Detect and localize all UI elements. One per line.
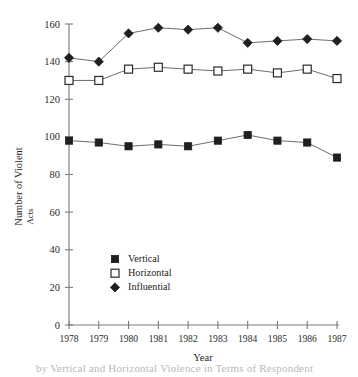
- chart-legend: VerticalHorizontalInfluential: [110, 253, 171, 292]
- data-point-marker: [154, 23, 163, 32]
- chart-series: [64, 23, 341, 161]
- legend-item-influential: Influential: [110, 281, 170, 292]
- series-line: [69, 135, 337, 158]
- figure-caption: by Vertical and Horizontal Violence in T…: [36, 363, 313, 374]
- y-axis-tick-label: 20: [50, 282, 61, 293]
- caption-strip: by Vertical and Horizontal Violence in T…: [0, 363, 358, 377]
- legend-item-vertical: Vertical: [111, 253, 159, 264]
- series-line: [69, 28, 337, 62]
- data-point-marker: [244, 65, 252, 73]
- x-axis-title: Year: [193, 352, 213, 363]
- data-point-marker: [303, 65, 311, 73]
- violent-acts-line-chart: 0204060801001201401601978197919801981198…: [0, 0, 358, 377]
- y-axis-tick-label: 140: [44, 56, 60, 67]
- x-axis-tick-label: 1984: [238, 333, 257, 344]
- data-point-marker: [65, 76, 73, 84]
- legend-item-label: Vertical: [128, 253, 160, 264]
- data-point-marker: [110, 283, 119, 292]
- series-influential: [64, 23, 341, 66]
- x-axis-tick-label: 1979: [89, 333, 108, 344]
- data-point-marker: [111, 255, 118, 262]
- y-axis-tick-label: 60: [50, 207, 61, 218]
- legend-item-horizontal: Horizontal: [111, 267, 172, 278]
- data-point-marker: [65, 137, 72, 144]
- data-point-marker: [184, 25, 193, 34]
- y-axis-tick-label: 100: [44, 131, 60, 142]
- data-point-marker: [125, 65, 133, 73]
- data-point-marker: [333, 154, 340, 161]
- x-axis-tick-label: 1986: [298, 333, 317, 344]
- data-point-marker: [95, 139, 102, 146]
- data-point-marker: [332, 36, 341, 45]
- series-horizontal: [65, 63, 341, 84]
- y-axis-tick-label: 120: [44, 94, 60, 105]
- x-axis-tick-label: 1978: [59, 333, 78, 344]
- chart-figure: 0204060801001201401601978197919801981198…: [0, 0, 358, 377]
- x-axis-tick-label: 1982: [179, 333, 198, 344]
- y-axis-tick-label: 80: [50, 169, 61, 180]
- legend-item-label: Horizontal: [128, 267, 172, 278]
- legend-item-label: Influential: [128, 281, 171, 292]
- data-point-marker: [304, 139, 311, 146]
- data-point-marker: [333, 75, 341, 83]
- y-axis-title-line2: Acts: [25, 208, 35, 224]
- data-point-marker: [273, 69, 281, 77]
- y-axis-title-line1: Number of Violent: [13, 147, 24, 225]
- x-axis-tick-label: 1985: [268, 333, 287, 344]
- data-point-marker: [111, 269, 119, 277]
- data-point-marker: [155, 141, 162, 148]
- data-point-marker: [214, 137, 221, 144]
- data-point-marker: [214, 67, 222, 75]
- y-axis-tick-label: 160: [44, 19, 60, 30]
- x-axis-tick-label: 1983: [208, 333, 227, 344]
- x-axis-tick-label: 1981: [149, 333, 168, 344]
- x-axis-tick-label: 1987: [327, 333, 346, 344]
- y-axis-tick-label: 0: [55, 320, 60, 331]
- data-point-marker: [273, 36, 282, 45]
- data-point-marker: [125, 143, 132, 150]
- y-axis-title: Number of ViolentActs: [13, 147, 35, 225]
- y-axis-tick-label: 40: [50, 244, 61, 255]
- data-point-marker: [95, 76, 103, 84]
- chart-axes: 0204060801001201401601978197919801981198…: [44, 19, 347, 344]
- x-axis-tick-label: 1980: [119, 333, 138, 344]
- data-point-marker: [185, 143, 192, 150]
- data-point-marker: [274, 137, 281, 144]
- data-point-marker: [244, 131, 251, 138]
- data-point-marker: [303, 34, 312, 43]
- data-point-marker: [243, 38, 252, 47]
- series-line: [69, 67, 337, 80]
- data-point-marker: [184, 65, 192, 73]
- series-vertical: [65, 131, 340, 161]
- data-point-marker: [213, 23, 222, 32]
- data-point-marker: [154, 63, 162, 71]
